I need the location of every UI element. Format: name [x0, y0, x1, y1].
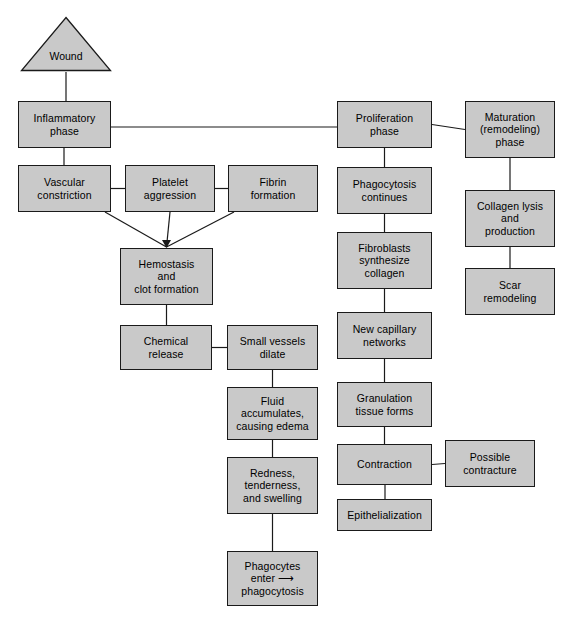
node-collagen_lysis[interactable]: Collagen lysis and production — [465, 190, 555, 247]
node-label-epithelialization: Epithelialization — [344, 509, 425, 522]
node-wound[interactable]: Wound — [20, 16, 112, 72]
node-inflammatory[interactable]: Inflammatory phase — [18, 101, 111, 148]
node-label-redness: Redness, tenderness, and swelling — [240, 467, 305, 505]
node-possible_contr[interactable]: Possible contracture — [445, 440, 535, 487]
node-label-small_vessels: Small vessels dilate — [237, 335, 308, 360]
node-epithelialization[interactable]: Epithelialization — [337, 499, 432, 531]
node-platelet[interactable]: Platelet aggression — [125, 165, 215, 212]
edge-contraction-to-possible_contr — [432, 464, 445, 465]
node-label-new_capillary: New capillary networks — [350, 323, 420, 348]
node-granulation[interactable]: Granulation tissue forms — [337, 382, 432, 427]
node-label-chemical: Chemical release — [141, 335, 192, 360]
edge-vascular-to-hemostasis — [105, 212, 167, 247]
node-label-fibrin: Fibrin formation — [248, 176, 299, 201]
arrowhead-hemostasis — [162, 240, 171, 248]
node-label-wound: Wound — [20, 50, 112, 63]
edge-fibrin-to-hemostasis — [167, 212, 235, 247]
node-fibrin[interactable]: Fibrin formation — [228, 165, 318, 212]
node-label-phagocytosis_c: Phagocytosis continues — [350, 178, 420, 203]
node-label-contraction: Contraction — [354, 458, 415, 471]
node-label-phagocytes: Phagocytes enter ⟶ phagocytosis — [238, 560, 307, 598]
node-label-proliferation: Proliferation phase — [353, 112, 416, 137]
node-new_capillary[interactable]: New capillary networks — [337, 312, 432, 359]
node-label-collagen_lysis: Collagen lysis and production — [474, 200, 546, 238]
node-proliferation[interactable]: Proliferation phase — [337, 101, 432, 148]
node-phagocytes[interactable]: Phagocytes enter ⟶ phagocytosis — [227, 551, 318, 606]
node-label-scar: Scar remodeling — [481, 279, 540, 304]
node-vascular[interactable]: Vascular constriction — [18, 165, 111, 212]
node-label-fibroblasts: Fibroblasts synthesize collagen — [355, 242, 413, 280]
node-redness[interactable]: Redness, tenderness, and swelling — [227, 457, 318, 514]
edge-proliferation-to-maturation — [432, 125, 465, 130]
node-label-fluid: Fluid accumulates, causing edema — [233, 395, 312, 433]
node-maturation[interactable]: Maturation (remodeling) phase — [465, 101, 555, 158]
node-scar[interactable]: Scar remodeling — [465, 268, 555, 315]
node-fluid[interactable]: Fluid accumulates, causing edema — [227, 387, 318, 440]
node-hemostasis[interactable]: Hemostasis and clot formation — [120, 248, 213, 305]
node-phagocytosis_c[interactable]: Phagocytosis continues — [337, 167, 432, 214]
node-label-vascular: Vascular constriction — [34, 176, 94, 201]
node-label-platelet: Platelet aggression — [141, 176, 199, 201]
node-chemical[interactable]: Chemical release — [120, 325, 212, 370]
node-small_vessels[interactable]: Small vessels dilate — [227, 325, 318, 370]
node-label-granulation: Granulation tissue forms — [353, 392, 417, 417]
node-contraction[interactable]: Contraction — [337, 444, 432, 485]
node-label-hemostasis: Hemostasis and clot formation — [131, 258, 201, 296]
node-label-maturation: Maturation (remodeling) phase — [477, 111, 543, 149]
flowchart-canvas: WoundInflammatory phaseProliferation pha… — [0, 0, 576, 618]
node-label-possible_contr: Possible contracture — [460, 451, 520, 476]
node-label-inflammatory: Inflammatory phase — [31, 112, 99, 137]
node-fibroblasts[interactable]: Fibroblasts synthesize collagen — [337, 232, 432, 289]
